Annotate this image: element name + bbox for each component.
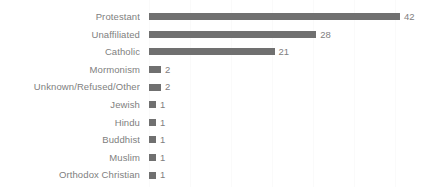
bar[interactable] [149, 84, 161, 91]
bar[interactable] [149, 119, 156, 126]
category-label: Buddhist [0, 135, 140, 145]
bar[interactable] [149, 172, 156, 179]
category-label: Orthodox Christian [0, 170, 140, 180]
value-label: 1 [160, 170, 165, 180]
chart-rows: Protestant42Unaffiliated28Catholic21Morm… [0, 8, 435, 184]
value-label: 28 [320, 30, 331, 40]
chart-row: Catholic21 [0, 43, 435, 61]
bar-track: 1 [140, 166, 435, 184]
value-label: 2 [165, 65, 170, 75]
bar[interactable] [149, 13, 400, 20]
value-label: 1 [160, 118, 165, 128]
chart-row: Jewish1 [0, 96, 435, 114]
bar[interactable] [149, 136, 156, 143]
bar-track: 1 [140, 114, 435, 132]
value-label: 2 [165, 82, 170, 92]
chart-row: Protestant42 [0, 8, 435, 26]
chart-row: Mormonism2 [0, 61, 435, 79]
chart-row: Orthodox Christian1 [0, 166, 435, 184]
bar-track: 2 [140, 61, 435, 79]
bar-track: 28 [140, 26, 435, 44]
bar[interactable] [149, 48, 275, 55]
category-label: Mormonism [0, 65, 140, 75]
bar-track: 2 [140, 78, 435, 96]
bar[interactable] [149, 31, 316, 38]
value-label: 1 [160, 100, 165, 110]
category-label: Hindu [0, 118, 140, 128]
chart-row: Unaffiliated28 [0, 26, 435, 44]
category-label: Muslim [0, 153, 140, 163]
value-label: 21 [279, 47, 290, 57]
value-label: 1 [160, 135, 165, 145]
bar-track: 1 [140, 131, 435, 149]
chart-row: Unknown/Refused/Other2 [0, 78, 435, 96]
category-label: Catholic [0, 47, 140, 57]
chart-row: Buddhist1 [0, 131, 435, 149]
bar-track: 42 [140, 8, 435, 26]
bar-track: 1 [140, 96, 435, 114]
category-label: Protestant [0, 12, 140, 22]
category-label: Unknown/Refused/Other [0, 82, 140, 92]
bar-chart: Protestant42Unaffiliated28Catholic21Morm… [0, 0, 435, 187]
bar[interactable] [149, 101, 156, 108]
category-label: Jewish [0, 100, 140, 110]
value-label: 1 [160, 153, 165, 163]
bar[interactable] [149, 154, 156, 161]
bar-track: 21 [140, 43, 435, 61]
bar[interactable] [149, 66, 161, 73]
category-label: Unaffiliated [0, 30, 140, 40]
bar-track: 1 [140, 149, 435, 167]
value-label: 42 [404, 12, 415, 22]
chart-row: Hindu1 [0, 114, 435, 132]
chart-row: Muslim1 [0, 149, 435, 167]
